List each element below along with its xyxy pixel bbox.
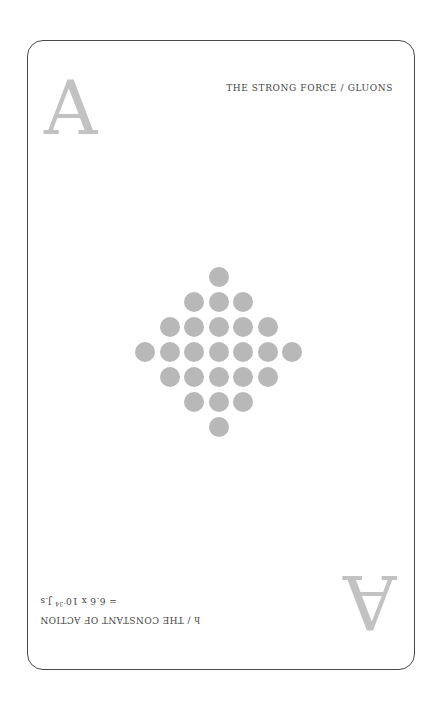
pip-dot [233,342,253,362]
pip-dot [233,317,253,337]
pip-dot [209,292,229,312]
pip-dot [160,317,180,337]
formula-rotated: h / THE CONSTANT OF ACTION = 6.6 x 10-34… [40,593,200,627]
pip-dot [233,367,253,387]
pip-dot [160,367,180,387]
pip-dot [184,292,204,312]
pip-dot [135,342,155,362]
pip-dot [184,392,204,412]
playing-card: A THE STRONG FORCE / GLUONS h / THE CONS… [27,40,415,670]
pip-dot [258,342,278,362]
pip-dot [209,317,229,337]
pip-dot [184,342,204,362]
pip-dot [258,317,278,337]
pip-dot [209,417,229,437]
pip-dot [184,317,204,337]
pip-dot [209,342,229,362]
formula-exponent: -34 [55,601,66,608]
pip-dot [209,367,229,387]
formula-value: = 6.6 x 10 [66,596,117,606]
pip-dot [160,342,180,362]
formula-line-1: h / THE CONSTANT OF ACTION [40,612,200,627]
pip-dot [184,367,204,387]
rank-bottom-inverted: A [343,565,396,639]
pip-dot [233,292,253,312]
formula-line-2: = 6.6 x 10-34 J.s [40,593,200,612]
pip-dot [209,392,229,412]
formula-unit: J.s [40,596,55,606]
pip-dot [233,392,253,412]
pip-dot [258,367,278,387]
pip-dot [209,267,229,287]
pip-dot [282,342,302,362]
